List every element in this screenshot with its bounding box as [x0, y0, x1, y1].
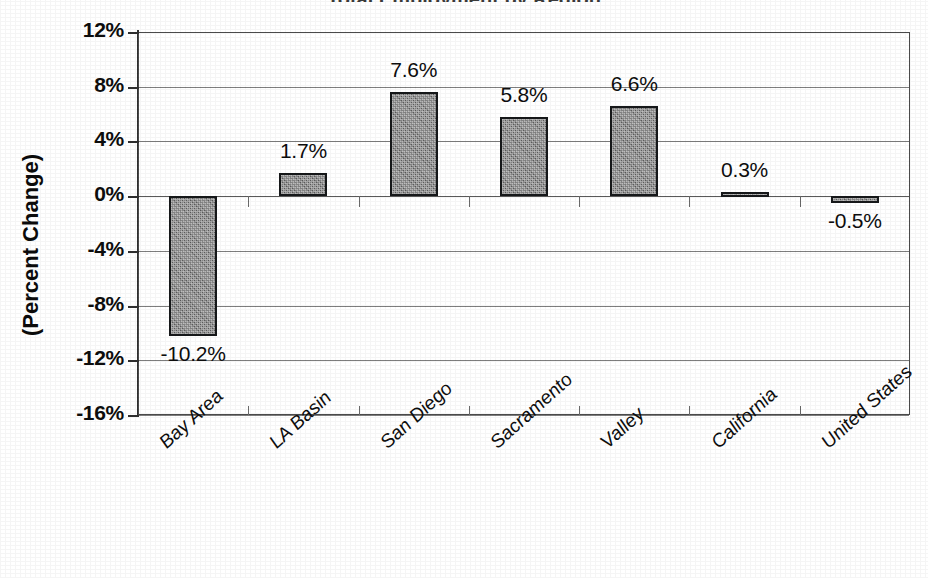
- y-axis-tick: [128, 141, 139, 143]
- bar: [831, 196, 879, 203]
- x-axis-bottom-tick: [248, 406, 249, 415]
- gridline: [139, 306, 909, 307]
- y-axis-label: -4%: [40, 237, 124, 261]
- bar-chart: Total Employment by Region (Percent Chan…: [0, 0, 928, 578]
- x-axis-tick: [800, 196, 801, 207]
- y-axis-label: 8%: [40, 73, 124, 97]
- gridline: [139, 251, 909, 252]
- bar: [390, 92, 438, 196]
- x-axis-bottom-tick: [469, 406, 470, 415]
- x-axis-tick: [359, 196, 360, 207]
- bar-value-label: 6.6%: [569, 72, 699, 96]
- y-axis-label: 4%: [40, 127, 124, 151]
- y-axis-label: -16%: [40, 401, 124, 425]
- bar: [279, 173, 327, 196]
- bar-value-label: -10.2%: [128, 342, 258, 366]
- bar-value-label: 1.7%: [238, 139, 368, 163]
- x-axis-tick: [689, 196, 690, 207]
- y-axis-label: -8%: [40, 292, 124, 316]
- x-axis-bottom-tick: [689, 406, 690, 415]
- y-axis-tick: [128, 87, 139, 89]
- x-axis-bottom-tick: [359, 406, 360, 415]
- bar-value-label: -0.5%: [790, 209, 920, 233]
- bar-value-label: 7.6%: [349, 58, 479, 82]
- chart-title-clipped: Total Employment by Region: [0, 0, 928, 2]
- y-axis-label: 0%: [40, 182, 124, 206]
- x-axis-tick: [248, 196, 249, 207]
- y-axis-tick: [128, 415, 139, 417]
- y-axis-tick: [128, 196, 139, 198]
- bar: [610, 106, 658, 196]
- gridline: [139, 196, 909, 197]
- y-axis-tick: [128, 306, 139, 308]
- x-axis-bottom-tick: [579, 406, 580, 415]
- x-axis-tick: [469, 196, 470, 207]
- bar: [169, 196, 217, 336]
- y-axis-tick: [128, 251, 139, 253]
- bar-value-label: 0.3%: [680, 158, 810, 182]
- x-axis-bottom-tick: [800, 406, 801, 415]
- y-axis-tick: [128, 32, 139, 34]
- bar: [721, 192, 769, 197]
- x-axis-tick: [579, 196, 580, 207]
- y-axis-label: 12%: [40, 18, 124, 42]
- y-axis-label: -12%: [40, 346, 124, 370]
- bar: [500, 117, 548, 196]
